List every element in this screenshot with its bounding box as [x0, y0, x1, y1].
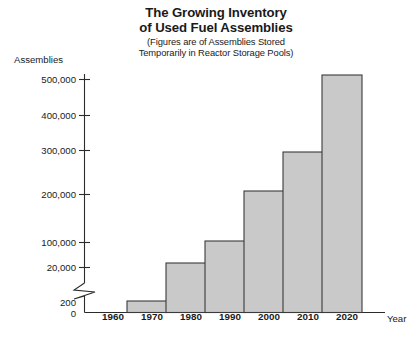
bar-2020: [322, 75, 362, 313]
bar-2010: [283, 152, 323, 313]
bar-1980: [166, 263, 206, 313]
plot-area: [0, 0, 412, 345]
bar-1970: [127, 301, 167, 313]
bar-2000: [244, 191, 284, 313]
bar-chart: The Growing Inventory of Used Fuel Assem…: [0, 0, 412, 345]
bar-1990: [205, 241, 245, 313]
